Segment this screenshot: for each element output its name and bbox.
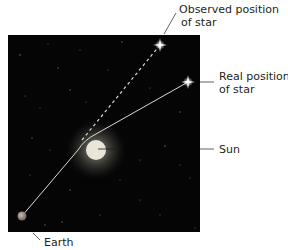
lensing-diagram: Observed position of star Real position …: [0, 0, 288, 250]
earth-icon: [18, 212, 27, 221]
observed-label-2: of star: [181, 16, 217, 29]
observed-leader-line: [164, 13, 176, 34]
earth-label: Earth: [44, 236, 74, 249]
sun: [86, 140, 106, 160]
real-label-2: of star: [219, 83, 255, 96]
real-label-1: Real position: [219, 70, 288, 83]
observed-label-1: Observed position: [179, 3, 279, 16]
earth-leader-line: [33, 233, 40, 240]
sun-label: Sun: [219, 143, 240, 156]
